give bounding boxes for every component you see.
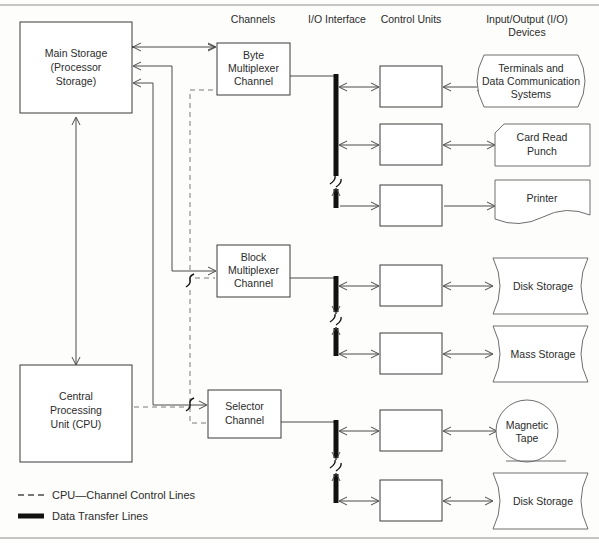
legend: CPU—Channel Control Lines Data Transfer … bbox=[18, 489, 196, 522]
column-headers: Channels I/O Interface Control Units Inp… bbox=[231, 13, 568, 38]
cpu-label-line3: Unit (CPU) bbox=[51, 418, 102, 430]
device-magnetic-tape[interactable]: Magnetic Tape bbox=[496, 400, 566, 462]
block-channel-label-line3: Channel bbox=[234, 277, 273, 289]
header-control-units: Control Units bbox=[381, 13, 442, 25]
line-hop-block bbox=[186, 274, 194, 287]
device-mass-storage[interactable]: Mass Storage bbox=[493, 326, 588, 382]
header-io-interface: I/O Interface bbox=[308, 13, 366, 25]
figure-canvas: Channels I/O Interface Control Units Inp… bbox=[0, 0, 599, 543]
channel-boxes: Byte Multiplexer Channel Block Multiplex… bbox=[208, 43, 290, 438]
control-unit-boxes bbox=[380, 66, 442, 521]
block-channel-label-line2: Multiplexer bbox=[228, 264, 279, 276]
selector-channel-label-line1: Selector bbox=[225, 400, 264, 412]
control-unit-5[interactable] bbox=[380, 333, 442, 374]
magnetic-tape-label-line1: Magnetic bbox=[506, 419, 549, 431]
control-line-cpu-to-selector bbox=[190, 407, 206, 423]
legend-label-control-lines: CPU—Channel Control Lines bbox=[52, 489, 196, 501]
node-selector-channel[interactable]: Selector Channel bbox=[208, 390, 281, 438]
cpu-label-line1: Central bbox=[59, 390, 93, 402]
link-mainstorage-block-channel bbox=[134, 66, 215, 271]
mass-storage-label: Mass Storage bbox=[511, 348, 576, 360]
device-terminals-and-data-communication-systems[interactable]: Terminals and Data Communication Systems bbox=[477, 55, 585, 107]
link-mainstorage-selector-channel bbox=[134, 83, 206, 405]
header-io-devices-second-line: Devices bbox=[508, 26, 545, 38]
block-channel-label-line1: Block bbox=[241, 251, 267, 263]
terminals-label-line3: Systems bbox=[511, 88, 551, 100]
main-storage-label-line1: Main Storage bbox=[45, 47, 108, 59]
control-unit-1[interactable] bbox=[380, 66, 442, 107]
byte-channel-label-line2: Multiplexer bbox=[228, 62, 279, 74]
selector-channel-label-line2: Channel bbox=[225, 414, 264, 426]
header-channels: Channels bbox=[231, 13, 275, 25]
device-disk-storage-2[interactable]: Disk Storage bbox=[493, 473, 588, 529]
bus-break-byte bbox=[330, 176, 341, 187]
disk-storage-2-label: Disk Storage bbox=[513, 495, 573, 507]
disk-storage-1-label: Disk Storage bbox=[513, 280, 573, 292]
node-main-storage[interactable]: Main Storage (Processor Storage) bbox=[20, 22, 132, 113]
node-byte-multiplexer-channel[interactable]: Byte Multiplexer Channel bbox=[217, 43, 290, 95]
control-unit-6[interactable] bbox=[380, 410, 442, 451]
main-storage-label-line3: Storage) bbox=[56, 75, 96, 87]
control-unit-3[interactable] bbox=[380, 185, 442, 226]
control-line-to-block-channel bbox=[190, 278, 215, 282]
bus-break-block bbox=[330, 314, 341, 325]
byte-channel-label-line1: Byte bbox=[243, 49, 264, 61]
legend-label-data-transfer: Data Transfer Lines bbox=[52, 510, 148, 522]
control-unit-2[interactable] bbox=[380, 124, 442, 165]
card-read-punch-label-line1: Card Read bbox=[517, 131, 568, 143]
device-card-read-punch[interactable]: Card Read Punch bbox=[495, 124, 590, 166]
node-block-multiplexer-channel[interactable]: Block Multiplexer Channel bbox=[217, 245, 290, 297]
header-io-devices: Input/Output (I/O) bbox=[486, 13, 568, 25]
terminals-label-line2: Data Communication bbox=[482, 75, 580, 87]
card-read-punch-label-line2: Punch bbox=[527, 145, 557, 157]
circle-shape-magnetic-tape[interactable] bbox=[496, 400, 558, 462]
terminals-label-line1: Terminals and bbox=[498, 62, 564, 74]
printer-label: Printer bbox=[527, 192, 558, 204]
system-block-diagram: Channels I/O Interface Control Units Inp… bbox=[0, 0, 599, 543]
node-cpu[interactable]: Central Processing Unit (CPU) bbox=[20, 365, 132, 462]
io-interface-buses bbox=[330, 74, 341, 503]
main-storage-label-line2: (Processor bbox=[51, 61, 102, 73]
cpu-label-line2: Processing bbox=[50, 404, 102, 416]
bus-break-selector bbox=[330, 460, 341, 471]
control-line-trunk-upper bbox=[190, 90, 215, 270]
device-printer[interactable]: Printer bbox=[495, 180, 590, 224]
control-unit-4[interactable] bbox=[380, 265, 442, 306]
io-device-shapes: Terminals and Data Communication Systems… bbox=[477, 55, 590, 529]
byte-channel-label-line3: Channel bbox=[234, 75, 273, 87]
magnetic-tape-label-line2: Tape bbox=[516, 432, 539, 444]
control-unit-7[interactable] bbox=[380, 480, 442, 521]
device-disk-storage-1[interactable]: Disk Storage bbox=[493, 258, 588, 314]
